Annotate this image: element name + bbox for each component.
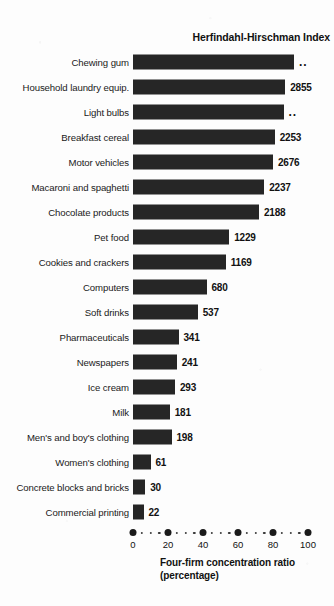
bar xyxy=(133,329,179,344)
bar-row: Ice cream293 xyxy=(0,374,334,399)
x-axis-tick-label: 20 xyxy=(163,539,174,550)
bar-row: Milk181 xyxy=(0,399,334,424)
bar-value-label: 2188 xyxy=(264,206,285,217)
bar-row: Soft drinks537 xyxy=(0,299,334,324)
bar-value-label: .. xyxy=(289,105,298,119)
bar-row: Computers680 xyxy=(0,274,334,299)
bar-row: Men's and boy's clothing198 xyxy=(0,424,334,449)
bar-row: Newspapers241 xyxy=(0,349,334,374)
bar-value-label: 680 xyxy=(212,281,228,292)
bar-category-label: Chocolate products xyxy=(48,206,129,217)
bar xyxy=(133,504,144,519)
x-axis-minor-dot xyxy=(246,532,248,534)
x-axis-minor-dot xyxy=(289,532,291,534)
bar-value-label: 241 xyxy=(182,356,198,367)
x-axis-tick-label: 60 xyxy=(233,539,244,550)
x-axis-tick-label: 80 xyxy=(268,539,279,550)
bar-category-label: Concrete blocks and bricks xyxy=(16,481,129,492)
x-axis-tick-dot xyxy=(270,529,277,536)
bar xyxy=(133,154,273,169)
bar xyxy=(133,179,264,194)
x-axis-tick-dot xyxy=(235,529,242,536)
bar-category-label: Pet food xyxy=(94,231,129,242)
bar xyxy=(133,404,170,419)
x-axis-label-line1: Four-firm concentration ratio xyxy=(160,556,295,569)
bar-row: Household laundry equip.2855 xyxy=(0,74,334,99)
bar-value-label: 181 xyxy=(175,406,191,417)
bar-row: Commercial printing22 xyxy=(0,499,334,524)
bar-value-label: 1229 xyxy=(234,231,255,242)
bar xyxy=(133,304,198,319)
bar-row: Cookies and crackers1169 xyxy=(0,249,334,274)
bar xyxy=(133,104,284,119)
bar-value-label: 537 xyxy=(203,306,219,317)
bar-value-label: 30 xyxy=(150,481,161,492)
x-axis-tick-dot xyxy=(130,529,137,536)
bar xyxy=(133,429,172,444)
bar-row: Chocolate products2188 xyxy=(0,199,334,224)
x-axis-minor-dot xyxy=(158,532,160,534)
x-axis-tick-label: 40 xyxy=(198,539,209,550)
bar-value-label: 2253 xyxy=(280,131,301,142)
bar-row: Light bulbs.. xyxy=(0,99,334,124)
bar xyxy=(133,54,294,69)
bar-category-label: Computers xyxy=(83,281,129,292)
bar-category-label: Milk xyxy=(112,406,129,417)
bar-row: Chewing gum.. xyxy=(0,49,334,74)
x-axis-minor-dot xyxy=(193,532,195,534)
bar xyxy=(133,479,145,494)
bar-value-label: 61 xyxy=(156,456,167,467)
bar-value-label: 1169 xyxy=(231,256,252,267)
bar-row: Breakfast cereal2253 xyxy=(0,124,334,149)
x-axis-tick-dot xyxy=(305,529,312,536)
x-axis-tick-label: 0 xyxy=(130,539,135,550)
bar xyxy=(133,79,285,94)
x-axis-minor-dot xyxy=(228,532,230,534)
chart-container: Herfindahl-Hirschman Index Chewing gum..… xyxy=(0,0,334,606)
x-axis-minor-dot xyxy=(281,532,283,534)
bar-row: Pharmaceuticals341 xyxy=(0,324,334,349)
bar xyxy=(133,229,229,244)
x-axis-tick-dot xyxy=(200,529,207,536)
bar-category-label: Light bulbs xyxy=(84,106,129,117)
bar xyxy=(133,204,259,219)
bar xyxy=(133,454,151,469)
x-axis-minor-dot xyxy=(141,532,143,534)
bar-category-label: Household laundry equip. xyxy=(23,81,129,92)
bar-value-label: 2237 xyxy=(269,181,290,192)
bar-row: Concrete blocks and bricks30 xyxy=(0,474,334,499)
bar-value-label: 198 xyxy=(177,431,193,442)
chart-title: Herfindahl-Hirschman Index xyxy=(133,31,334,43)
bar xyxy=(133,379,175,394)
x-axis-tick-label: 100 xyxy=(300,539,316,550)
x-axis-minor-dot xyxy=(254,532,256,534)
x-axis-minor-dot xyxy=(184,532,186,534)
bar xyxy=(133,354,177,369)
x-axis-minor-dot xyxy=(211,532,213,534)
bar-category-label: Pharmaceuticals xyxy=(60,331,129,342)
bar xyxy=(133,279,207,294)
bar-value-label: .. xyxy=(299,55,308,69)
bar-chart-plot-area: Chewing gum..Household laundry equip.285… xyxy=(0,49,334,524)
bar-category-label: Men's and boy's clothing xyxy=(27,431,129,442)
bar-category-label: Ice cream xyxy=(88,381,129,392)
bar-category-label: Macaroni and spaghetti xyxy=(31,181,129,192)
x-axis-minor-dot xyxy=(176,532,178,534)
x-axis-tick-labels: 020406080100 xyxy=(133,539,308,553)
bar-category-label: Women's clothing xyxy=(55,456,129,467)
bar-category-label: Commercial printing xyxy=(46,506,129,517)
bar-category-label: Motor vehicles xyxy=(69,156,129,167)
bar-value-label: 2855 xyxy=(290,81,311,92)
bar-row: Pet food1229 xyxy=(0,224,334,249)
bar-category-label: Chewing gum xyxy=(71,56,129,67)
x-axis-minor-dot xyxy=(263,532,265,534)
bar-category-label: Soft drinks xyxy=(85,306,129,317)
bar-category-label: Cookies and crackers xyxy=(39,256,129,267)
bar-row: Motor vehicles2676 xyxy=(0,149,334,174)
x-axis-minor-dot xyxy=(149,532,151,534)
x-axis-minor-dot xyxy=(298,532,300,534)
bar-row: Macaroni and spaghetti2237 xyxy=(0,174,334,199)
bar xyxy=(133,129,275,144)
x-axis-tick-dot xyxy=(165,529,172,536)
x-axis-label: Four-firm concentration ratio (percentag… xyxy=(160,556,295,582)
